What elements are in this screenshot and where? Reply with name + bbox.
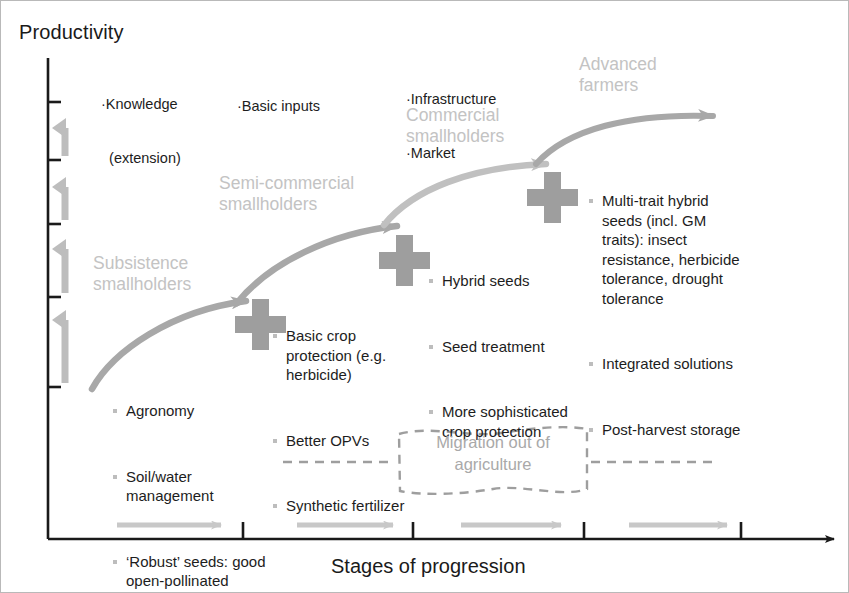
list-item: ‘Robust’ seeds: good open-pollinated var…	[113, 552, 293, 593]
list-item-label: Hybrid seeds	[442, 271, 530, 291]
list-item-label: ‘Robust’ seeds: good open-pollinated var…	[126, 552, 266, 593]
bullet-icon	[273, 504, 277, 508]
plus-icon	[379, 235, 430, 286]
driver-line: (extension)	[101, 149, 181, 167]
list-item-label: Agronomy	[126, 401, 194, 421]
diagram-frame: Productivity Stages of progression Subsi…	[0, 0, 849, 593]
bullet-icon	[113, 560, 117, 564]
bullet-icon	[273, 334, 277, 338]
bullet-icon	[589, 199, 593, 203]
y-axis-ticks	[48, 102, 61, 387]
y-axis-title: Productivity	[19, 21, 124, 44]
list-item: Post-harvest storage	[589, 420, 774, 440]
driver-infrastructure-market: ·Infrastructure ·Market	[406, 54, 496, 198]
list-item-label: Seed treatment	[442, 337, 545, 357]
bullet-icon	[589, 428, 593, 432]
y-axis	[48, 58, 61, 539]
bullet-icon	[113, 475, 117, 479]
list-item: Integrated solutions	[589, 354, 774, 374]
list-item-label: Multi-trait hybrid seeds (incl. GM trait…	[602, 191, 740, 308]
list-item: Multi-trait hybrid seeds (incl. GM trait…	[589, 191, 774, 308]
list-item: Basic crop protection (e.g. herbicide)	[273, 326, 433, 385]
stage-list-semi-commercial: Basic crop protection (e.g. herbicide) B…	[273, 287, 433, 562]
list-item: Soil/water management	[113, 467, 293, 506]
list-item-label: Soil/water management	[126, 467, 214, 506]
list-item-label: Integrated solutions	[602, 354, 733, 374]
plus-icon	[527, 172, 578, 223]
driver-basic-inputs: ·Basic inputs	[237, 61, 320, 151]
stage-list-advanced: Multi-trait hybrid seeds (incl. GM trait…	[589, 152, 774, 485]
stage-label-advanced-farmers: Advanced farmers	[579, 54, 657, 96]
bullet-icon	[429, 410, 433, 414]
bullet-icon	[429, 345, 433, 349]
driver-line: ·Infrastructure	[406, 90, 496, 108]
list-item-label: Better OPVs	[286, 431, 369, 451]
list-item: Agronomy	[113, 401, 293, 421]
bullet-icon	[429, 279, 433, 283]
stage-label-semi-commercial: Semi-commercial smallholders	[219, 173, 354, 215]
driver-line: ·Basic inputs	[237, 97, 320, 115]
list-item: Synthetic fertilizer	[273, 496, 433, 516]
list-item: Hybrid seeds	[429, 271, 591, 291]
bullet-icon	[273, 439, 277, 443]
bullet-icon	[589, 362, 593, 366]
list-item-label: Post-harvest storage	[602, 420, 740, 440]
stage-label-subsistence: Subsistence smallholders	[93, 253, 191, 295]
stage-list-subsistence: Agronomy Soil/water management ‘Robust’ …	[113, 362, 293, 593]
driver-line: ·Knowledge	[101, 95, 181, 113]
driver-line: ·Market	[406, 144, 496, 162]
list-item-label: Basic crop protection (e.g. herbicide)	[286, 326, 386, 385]
migration-callout-label: Migration out of agriculture	[408, 431, 578, 475]
driver-knowledge: ·Knowledge (extension)	[101, 59, 181, 203]
list-item-label: Synthetic fertilizer	[286, 496, 404, 516]
list-item: Seed treatment	[429, 337, 591, 357]
bullet-icon	[113, 409, 117, 413]
